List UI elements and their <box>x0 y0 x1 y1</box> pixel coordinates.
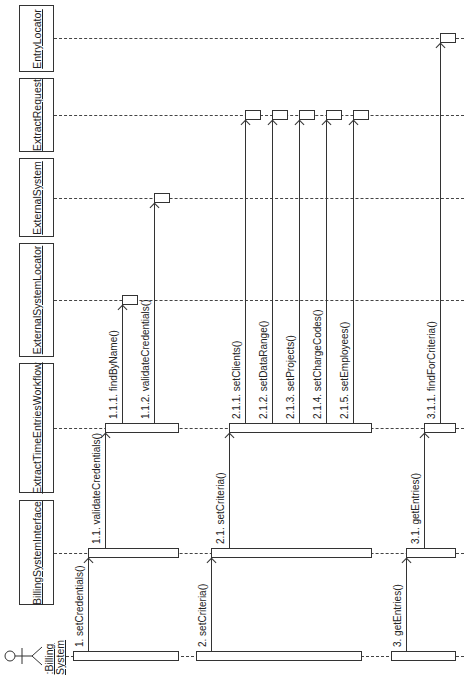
message-label: 3.1. getEntries() <box>410 473 421 544</box>
arrowhead-icon <box>150 203 160 213</box>
message-label: 2.1. setCriteria() <box>215 472 226 544</box>
arrowhead-icon <box>84 558 94 568</box>
message-arrow-m3_1 <box>424 433 425 548</box>
message-label: 2.1.3. setProjects() <box>285 335 296 419</box>
activation-bar-extract-request <box>299 110 315 120</box>
actor-stick-figure-icon <box>2 644 44 668</box>
message-label: 2.1.4. setChargeCodes() <box>312 309 323 419</box>
activation-bar-extract-request <box>245 110 261 120</box>
object-name: ExternalSystemLocator <box>31 246 43 355</box>
object-box-billing-system-interface: BillingSystemInterface <box>19 500 54 605</box>
activation-bar-entry-locator <box>440 33 456 43</box>
arrowhead-icon <box>420 433 430 443</box>
message-arrow-m3_1_1 <box>440 43 441 423</box>
actor-label-line2: System <box>55 643 66 675</box>
arrowhead-icon <box>207 558 217 568</box>
object-box-entry-locator: EntryLocator <box>19 5 54 72</box>
sequence-diagram: :Billing System EntryLocatorExtractReque… <box>0 0 473 675</box>
activation-bar-billing-system-interface <box>88 548 179 558</box>
object-name: EntryLocator <box>31 9 43 69</box>
object-name: ExternalSystem <box>31 161 43 235</box>
activation-bar-actor <box>73 651 179 661</box>
actor-label: :Billing System <box>44 643 66 675</box>
message-label: 3.1.1. findForCriteria() <box>426 321 437 419</box>
message-arrow-m2 <box>211 558 212 651</box>
message-arrow-m2_1_1 <box>245 120 246 423</box>
message-label: 2.1.2. setDataRange() <box>258 321 269 419</box>
message-arrow-m1_1_2 <box>154 203 155 423</box>
message-arrow-m2_1_4 <box>326 120 327 423</box>
activation-bar-extract-request <box>326 110 342 120</box>
arrowhead-icon <box>101 433 111 443</box>
object-box-external-system-locator: ExternalSystemLocator <box>19 243 54 357</box>
arrowhead-icon <box>322 120 332 130</box>
message-label: 1.1.1. findByName() <box>108 330 119 419</box>
message-arrow-m3 <box>406 558 407 651</box>
activation-bar-external-system-locator <box>122 295 138 305</box>
message-label: 1.1. validateCredentials() <box>91 433 102 544</box>
arrowhead-icon <box>436 43 446 53</box>
arrowhead-icon <box>268 120 278 130</box>
object-name: ExtractTimeEntriesWorkflow <box>31 362 43 493</box>
object-box-extract-request: ExtractRequest <box>19 78 54 152</box>
activation-bar-actor <box>196 651 362 661</box>
message-label: 3. getEntries() <box>392 584 403 647</box>
activation-bar-billing-system-interface <box>406 548 456 558</box>
message-arrow-m1_1 <box>105 433 106 548</box>
message-arrow-m2_1_2 <box>272 120 273 423</box>
activation-bar-extract-time-entries-workflow <box>105 423 179 433</box>
message-label: 2.1.5. setEmployees() <box>339 322 350 419</box>
object-name: ExtractRequest <box>31 79 43 151</box>
lifeline-external-system <box>54 198 464 199</box>
message-arrow-m2_1 <box>229 433 230 548</box>
message-arrow-m2_1_5 <box>353 120 354 423</box>
message-label: 2. setCriteria() <box>197 584 208 647</box>
message-arrow-m1 <box>88 558 89 651</box>
arrowhead-icon <box>295 120 305 130</box>
activation-bar-extract-time-entries-workflow <box>424 423 456 433</box>
activation-bar-billing-system-interface <box>211 548 372 558</box>
arrowhead-icon <box>349 120 359 130</box>
message-label: 2.1.1. setClients() <box>231 341 242 419</box>
lifeline-entry-locator <box>54 38 464 39</box>
object-name: BillingSystemInterface <box>31 501 43 605</box>
message-arrow-m2_1_3 <box>299 120 300 423</box>
object-box-external-system: ExternalSystem <box>19 158 54 237</box>
activation-bar-extract-request <box>353 110 369 120</box>
message-label: 1. setCredentials() <box>74 565 85 647</box>
activation-bar-actor <box>391 651 456 661</box>
object-box-extract-time-entries-workflow: ExtractTimeEntriesWorkflow <box>19 363 54 493</box>
activation-bar-extract-time-entries-workflow <box>229 423 372 433</box>
activation-bar-extract-request <box>272 110 288 120</box>
arrowhead-icon <box>225 433 235 443</box>
message-label: 1.1.2. validateCredentials() <box>140 299 151 419</box>
lifeline-external-system-locator <box>54 300 464 301</box>
arrowhead-icon <box>118 305 128 315</box>
arrowhead-icon <box>241 120 251 130</box>
arrowhead-icon <box>402 558 412 568</box>
message-arrow-m1_1_1 <box>122 305 123 423</box>
activation-bar-external-system <box>154 193 170 203</box>
